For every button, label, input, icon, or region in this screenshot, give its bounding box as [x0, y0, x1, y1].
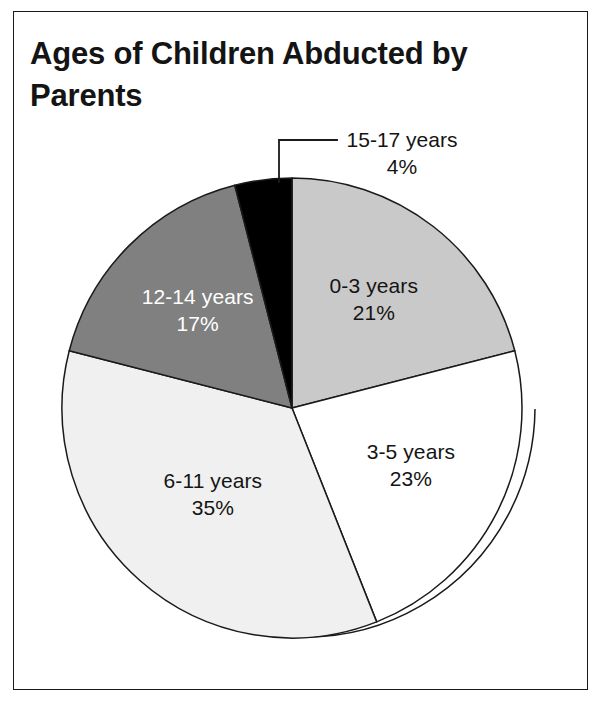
pie-label-15-17-years: 15-17 years4% — [347, 128, 458, 178]
pie-chart-svg: 0-3 years21%3-5 years23%6-11 years35%12-… — [13, 11, 588, 690]
pie-slices-group — [62, 178, 522, 638]
callout-leader-line-15-17 — [279, 140, 337, 182]
pie-label-value-15-17-years: 4% — [387, 155, 417, 178]
pie-label-name-0-3-years: 0-3 years — [330, 274, 418, 297]
pie-chart-stage: 0-3 years21%3-5 years23%6-11 years35%12-… — [13, 11, 588, 690]
pie-label-value-6-11-years: 35% — [192, 496, 234, 519]
pie-label-name-15-17-years: 15-17 years — [347, 128, 458, 151]
pie-label-name-12-14-years: 12-14 years — [142, 285, 254, 308]
pie-label-value-0-3-years: 21% — [353, 301, 395, 324]
pie-label-value-12-14-years: 17% — [177, 312, 219, 335]
pie-label-value-3-5-years: 23% — [390, 467, 432, 490]
figure-root: Ages of Children Abducted by Parents 0-3… — [0, 0, 602, 701]
pie-label-name-3-5-years: 3-5 years — [367, 440, 455, 463]
pie-label-name-6-11-years: 6-11 years — [164, 469, 263, 492]
